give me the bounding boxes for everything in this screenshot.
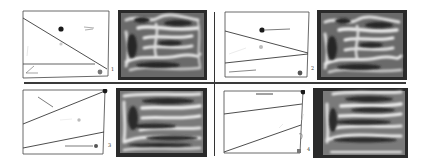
- divider-vertical-top: [214, 12, 215, 82]
- panel-label-2: 2: [311, 66, 314, 71]
- field-image-3: [116, 88, 207, 157]
- divider-horizontal-right: [214, 82, 406, 84]
- line-diagram-3: [22, 89, 108, 155]
- panel-label-1: 1: [111, 67, 114, 72]
- field-image-1: [118, 10, 207, 80]
- divider-horizontal-left: [24, 82, 214, 84]
- line-diagram-2: [224, 11, 310, 80]
- panel-label-3: 3: [108, 143, 111, 148]
- field-image-2: [317, 10, 407, 80]
- figure: 1: [0, 0, 429, 167]
- line-diagram-4: [223, 90, 305, 154]
- divider-vertical-bottom: [214, 84, 215, 156]
- panel-label-4: 4: [307, 147, 310, 152]
- field-image-4: [313, 88, 408, 158]
- line-diagram-1: [22, 10, 110, 80]
